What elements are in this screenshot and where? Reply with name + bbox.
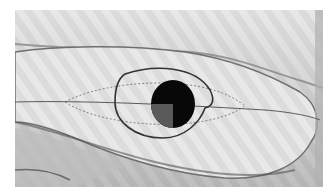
right-edge-shadow xyxy=(315,10,323,187)
photograph xyxy=(15,10,323,187)
photo-canvas xyxy=(15,10,323,187)
